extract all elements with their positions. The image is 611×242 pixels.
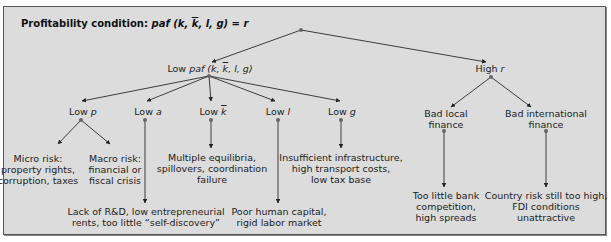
node-low-a-prefix: Low [134,106,156,117]
root-node-dot [299,28,303,32]
node-low-a-var: a [156,106,162,117]
node-bad-local-finance-line2: finance [424,119,468,130]
node-low-l: Low l [266,106,290,117]
leaf-insufficient-infrastructure-line3: low tax base [279,174,402,185]
edge-lowp-macro [81,120,110,144]
title-formula: paf (k, k, l, g) = r [151,18,248,29]
leaf-micro-risk-line3: corruption, taxes [0,175,78,186]
node-bad-international-finance-line2: finance [505,119,587,130]
edge-lowpaf-lowg [209,76,340,101]
leaf-macro-risk-line3: fiscal crisis [89,175,142,186]
leaf-macro-risk: Macro risk: financial or fiscal crisis [89,153,142,186]
lowl-node-dot [276,118,280,122]
node-low-kbar-prefix: Low [199,106,221,117]
leaf-too-little-bank-line2: competition, [413,201,479,212]
leaf-country-risk-line3: unattractive [485,212,608,223]
leaf-country-risk-line1: Country risk still too high, [485,190,608,201]
edge-lowpaf-lowl [209,76,275,101]
edge-root-highr [301,30,486,62]
edge-highr-badlocal [451,77,491,107]
lowpaf-node-dot [207,74,211,78]
node-low-l-prefix: Low [266,106,288,117]
highr-node-dot [489,75,493,79]
leaf-multiple-equilibria-line3: failure [157,174,267,185]
node-low-g-var: g [350,106,356,117]
leaf-country-risk-line2: FDI conditions [485,201,608,212]
node-high-r-var: r [500,63,504,74]
leaf-insufficient-infrastructure-line1: Insufficient infrastructure, [279,152,402,163]
leaf-poor-human-capital-line2: rigid labor market [231,217,326,228]
node-low-paf-var: paf [189,63,204,74]
edge-root-lowpaf [212,30,301,62]
node-low-paf: Low paf (k, k, l, g) [167,63,252,74]
edge-lowpaf-lowa [147,76,209,101]
leaf-too-little-bank-line1: Too little bank [413,190,479,201]
leaf-lack-rd-line1: Lack of R&D, low entrepreneurial [67,206,224,217]
edge-lowpaf-lowk [209,76,211,101]
leaf-micro-risk: Micro risk: property rights, corruption,… [0,153,78,186]
node-low-l-var: l [288,106,291,117]
leaf-multiple-equilibria-line1: Multiple equilibria, [157,152,267,163]
leaf-micro-risk-line1: Micro risk: [0,153,78,164]
leaf-too-little-bank-line3: high spreads [413,212,479,223]
node-high-r: High r [476,63,505,74]
leaf-insufficient-infrastructure: Insufficient infrastructure, high transp… [279,152,402,185]
leaf-macro-risk-line2: financial or [89,164,142,175]
edge-lowp-micro [58,120,81,144]
leaf-multiple-equilibria: Multiple equilibria, spillovers, coordin… [157,152,267,185]
node-low-g: Low g [328,106,356,117]
lowp-node-dot [79,118,83,122]
leaf-poor-human-capital-line1: Poor human capital, [231,206,326,217]
node-low-p: Low p [69,106,97,117]
node-bad-international-finance: Bad international finance [505,108,587,130]
leaf-lack-rd: Lack of R&D, low entrepreneurial rents, … [67,206,224,228]
edge-lowpaf-lowp [82,76,209,101]
node-low-kbar-var: k [221,106,227,117]
lowg-node-dot [339,118,343,122]
leaf-poor-human-capital: Poor human capital, rigid labor market [231,206,326,228]
node-low-p-var: p [91,106,97,117]
node-low-kbar: Low k [199,106,226,117]
diagram-title: Profitability condition: paf (k, k, l, g… [21,18,248,29]
edge-highr-badintl [491,77,531,107]
leaf-macro-risk-line1: Macro risk: [89,153,142,164]
leaf-micro-risk-line2: property rights, [0,164,78,175]
leaf-lack-rd-line2: rents, too little “self-discovery” [67,217,224,228]
node-low-a: Low a [134,106,162,117]
lowk-node-dot [209,118,213,122]
node-low-paf-args: (k, k, l, g) [207,63,252,74]
node-bad-local-finance: Bad local finance [424,108,468,130]
lowa-node-dot [143,118,147,122]
node-low-g-prefix: Low [328,106,350,117]
title-prefix: Profitability condition: [21,18,151,29]
node-high-r-prefix: High [476,63,501,74]
leaf-too-little-bank: Too little bank competition, high spread… [413,190,479,223]
leaf-insufficient-infrastructure-line2: high transport costs, [279,163,402,174]
node-low-paf-prefix: Low [167,63,189,74]
leaf-multiple-equilibria-line2: spillovers, coordination [157,163,267,174]
node-bad-local-finance-line1: Bad local [424,108,468,119]
node-low-p-prefix: Low [69,106,91,117]
node-bad-international-finance-line1: Bad international [505,108,587,119]
leaf-country-risk: Country risk still too high, FDI conditi… [485,190,608,223]
